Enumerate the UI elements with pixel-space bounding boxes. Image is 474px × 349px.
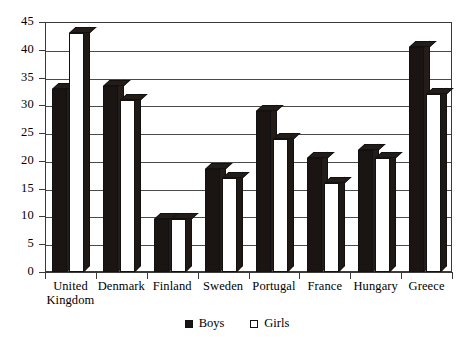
y-axis-line — [45, 22, 46, 272]
x-axis-tick — [452, 272, 453, 279]
y-axis-tick-label: 15 — [6, 182, 34, 195]
bar-face — [171, 219, 186, 272]
y-axis-tick-label: 25 — [6, 126, 34, 139]
bar-face — [69, 33, 84, 272]
bar-boys-portugal — [256, 105, 271, 272]
x-axis-tick — [45, 272, 46, 279]
x-axis-tick — [198, 272, 199, 279]
legend-entry-girls[interactable]: Girls — [250, 316, 289, 331]
bar-face — [273, 139, 288, 272]
bar-girls-france — [324, 177, 339, 272]
x-axis-tick — [401, 272, 402, 279]
legend-label: Boys — [199, 316, 225, 331]
y-axis-tick-label: 10 — [6, 209, 34, 222]
bar-side — [84, 27, 90, 272]
y-axis-tick-label: 20 — [6, 154, 34, 167]
category-label-line2: Kingdom — [35, 293, 106, 307]
x-axis-tick — [147, 272, 148, 279]
x-axis-tick — [249, 272, 250, 279]
chart-legend: BoysGirls — [0, 316, 474, 331]
bar-boys-hungary — [358, 144, 373, 272]
bar-chart: UnitedKingdomDenmarkFinlandSwedenPortuga… — [0, 0, 474, 349]
bar-girls-sweden — [222, 172, 237, 272]
x-axis-tick — [96, 272, 97, 279]
bar-girls-denmark — [120, 94, 135, 272]
bar-face — [52, 89, 67, 272]
bar-face — [324, 183, 339, 272]
category-label-line1: United — [53, 279, 88, 293]
bar-face — [222, 178, 237, 272]
bar-face — [120, 100, 135, 272]
legend-entry-boys[interactable]: Boys — [185, 316, 225, 331]
y-axis-tick-label: 45 — [6, 15, 34, 28]
category-label-line1: France — [308, 279, 343, 293]
bar-boys-france — [307, 152, 322, 272]
x-axis-tick — [350, 272, 351, 279]
y-axis-tick-label: 30 — [6, 98, 34, 111]
filled-square-icon — [185, 320, 193, 328]
bar-face — [256, 111, 271, 272]
x-axis-category-label: Greece — [391, 279, 462, 293]
bar-boys-greece — [409, 41, 424, 272]
bar-boys-finland — [154, 213, 169, 272]
bar-side — [441, 88, 447, 272]
gridline — [46, 51, 451, 52]
bar-side — [288, 132, 294, 272]
y-axis-tick-label: 40 — [6, 43, 34, 56]
bar-face — [358, 150, 373, 272]
y-axis-tick-label: 35 — [6, 71, 34, 84]
bar-face — [205, 169, 220, 272]
bar-face — [103, 86, 118, 272]
bar-face — [307, 158, 322, 272]
bar-girls-hungary — [375, 152, 390, 272]
bar-side — [186, 213, 192, 272]
empty-square-icon — [250, 320, 258, 328]
bar-side — [237, 171, 243, 272]
bar-side — [339, 177, 345, 272]
y-axis-tick-label: 5 — [6, 237, 34, 250]
bar-girls-greece — [426, 88, 441, 272]
bar-boys-sweden — [205, 163, 220, 272]
bar-boys-united-kingdom — [52, 83, 67, 272]
bar-face — [375, 158, 390, 272]
bar-side — [390, 152, 396, 272]
bar-girls-finland — [171, 213, 186, 272]
bar-face — [154, 219, 169, 272]
bar-boys-denmark — [103, 80, 118, 272]
y-axis-tick-label: 0 — [6, 265, 34, 278]
category-label-line1: Finland — [153, 279, 192, 293]
bar-face — [409, 47, 424, 272]
bar-girls-portugal — [273, 133, 288, 272]
bar-girls-united-kingdom — [69, 27, 84, 272]
bar-face — [426, 94, 441, 272]
x-axis-tick — [299, 272, 300, 279]
category-label-line1: Greece — [409, 279, 445, 293]
legend-label: Girls — [264, 316, 289, 331]
bar-side — [135, 94, 141, 272]
category-label-line1: Sweden — [203, 279, 243, 293]
